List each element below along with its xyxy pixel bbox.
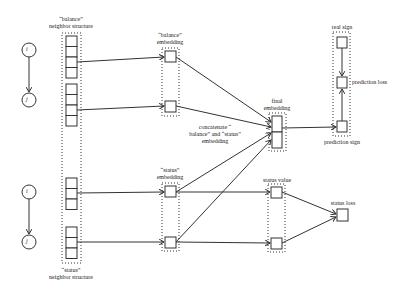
balance-neighbor-label: “balance” neighbor structure: [48, 16, 94, 30]
concatenate-label: concatenate “ balance” and “status” embe…: [180, 124, 250, 145]
status-embedding-box: [165, 237, 176, 248]
node-j: [22, 93, 36, 107]
node-i-label: i: [26, 188, 28, 195]
prediction-loss-label: prediction loss: [352, 79, 387, 86]
real-sign-box: [337, 37, 347, 48]
balance-embedding-label: “balance” embedding: [150, 32, 190, 46]
edges: [77, 48, 342, 243]
status-neighbor-vectors: [66, 178, 77, 259]
final-embedding-box: [272, 132, 282, 148]
status-loss-label: status loss: [324, 200, 362, 207]
status-value-box: [271, 187, 282, 198]
prediction-sign-label: prediction sign: [316, 139, 368, 146]
status-loss-box: [337, 209, 348, 221]
status-node-pair: [22, 185, 36, 249]
node-i: [22, 43, 36, 57]
node-j-label: j: [26, 96, 28, 103]
real-sign-label: real sign: [322, 24, 362, 31]
status-value-box: [271, 238, 282, 249]
prediction-sign-box: [337, 121, 347, 132]
status-embedding-box: [165, 186, 176, 197]
node-i: [22, 185, 36, 199]
prediction-loss-box: [337, 77, 347, 88]
diagram-canvas: [0, 0, 406, 298]
node-i-label: i: [26, 46, 28, 53]
balance-neighbor-vectors: [66, 36, 77, 126]
status-neighbor-label: “status” neighbor structure: [48, 267, 94, 281]
balance-embedding-box: [165, 101, 176, 112]
final-embedding-label: final embedding: [257, 98, 297, 112]
node-j: [22, 235, 36, 249]
balance-node-pair: [22, 43, 36, 107]
status-value-label: status value: [256, 177, 298, 184]
balance-embedding-box: [165, 51, 176, 62]
final-embedding-box: [272, 116, 282, 132]
node-j-label: j: [26, 238, 28, 245]
status-embedding-label: “status” embedding: [150, 167, 190, 181]
